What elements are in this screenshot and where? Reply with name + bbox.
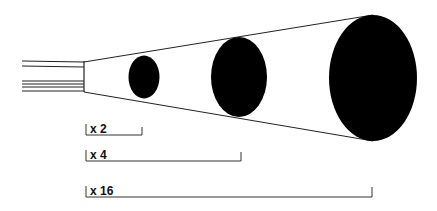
scale-bar-x16: [86, 186, 372, 197]
scale-label-x16: x 16: [90, 184, 114, 198]
ellipse-medium: [211, 37, 267, 117]
magnification-diagram: x 2 x 4 x 16: [0, 0, 437, 211]
scale-bar-x4: [86, 150, 241, 161]
scale-label-x2: x 2: [90, 122, 107, 136]
tube-source: [22, 61, 84, 92]
scale-label-x4: x 4: [90, 148, 107, 162]
ellipse-small: [129, 56, 160, 99]
ellipse-large: [329, 15, 417, 141]
